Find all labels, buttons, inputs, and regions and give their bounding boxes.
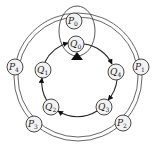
- node-Q0: Q0: [68, 36, 84, 52]
- edge-q1-q0: [45, 43, 68, 62]
- ring-diagram: P0 P1 P2 P3 P4 Q0 Q4 Q3 Q2 Q1: [0, 0, 162, 153]
- edge-q0-q4: [84, 44, 112, 64]
- edge-q2-q1: [42, 78, 47, 101]
- node-Q1: Q1: [35, 62, 51, 78]
- root-marker-triangle-icon: [71, 52, 83, 60]
- edge-q4-q3: [108, 80, 117, 100]
- node-P1: P1: [133, 59, 149, 75]
- node-Q2: Q2: [43, 99, 59, 115]
- node-Q3: Q3: [96, 99, 112, 115]
- node-P3: P3: [26, 116, 42, 132]
- node-P0: P0: [66, 13, 82, 29]
- edge-q3-q2: [58, 111, 97, 117]
- node-P2: P2: [115, 115, 131, 131]
- node-P4: P4: [7, 59, 23, 75]
- node-Q4: Q4: [108, 64, 124, 80]
